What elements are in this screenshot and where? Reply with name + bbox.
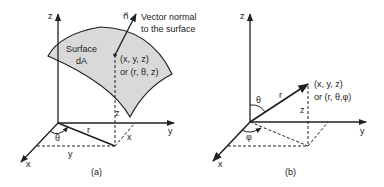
x-axis-label-a: x	[26, 159, 31, 169]
panel-a-cylindrical: z y x Surface dA n⃗ Vector normal to the…	[21, 11, 197, 177]
caption-b: (b)	[285, 167, 296, 177]
surface-label-2: dA	[76, 56, 87, 66]
radius-label-a: r	[87, 125, 90, 135]
point-label-a-2: or (r, θ, z)	[120, 67, 159, 77]
normal-label-2: to the surface	[141, 24, 196, 34]
caption-a: (a)	[91, 167, 102, 177]
point-label-b-1: (x, y, z)	[314, 79, 343, 89]
y-proj-label-a: y	[68, 149, 73, 159]
theta-label-a: θ	[55, 133, 60, 143]
z-axis-label-b: z	[240, 11, 245, 21]
radius-label-b: r	[279, 90, 282, 100]
theta-arc-b	[250, 105, 265, 112]
y-axis-label-a: y	[168, 126, 173, 136]
normal-label-1: Vector normal	[141, 12, 197, 22]
z-axis-label-a: z	[48, 11, 53, 21]
normal-symbol: n⃗	[123, 11, 129, 21]
panel-b-spherical: z y x (x, y, z) or (r, θ,φ) θ r z φ (b)	[213, 11, 366, 177]
x-axis-label-b: x	[218, 159, 223, 169]
z-proj-label-a: z	[115, 108, 120, 118]
x-projection-a	[115, 123, 135, 146]
x-projection-b	[308, 122, 328, 146]
z-proj-label-b: z	[300, 105, 305, 115]
theta-label-b: θ	[256, 95, 261, 105]
x-axis-a	[21, 123, 58, 162]
surface-label-1: Surface	[66, 44, 97, 54]
x-proj-label-a: x	[127, 132, 132, 142]
point-label-a-1: (x, y, z)	[120, 54, 149, 64]
coordinate-systems-figure: z y x Surface dA n⃗ Vector normal to the…	[0, 0, 384, 187]
y-axis-label-b: y	[360, 126, 365, 136]
x-axis-b	[213, 122, 250, 161]
point-label-b-2: or (r, θ,φ)	[314, 92, 351, 102]
xy-projection-b	[250, 122, 308, 146]
phi-label-b: φ	[246, 132, 252, 142]
